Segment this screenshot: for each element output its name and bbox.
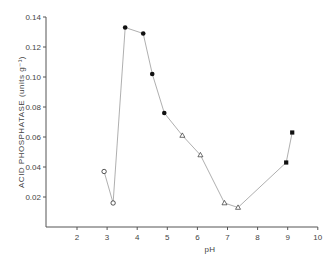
x-tick-label: 6 xyxy=(195,233,200,242)
y-tick-label: 0.02 xyxy=(25,193,41,202)
x-tick-label: 4 xyxy=(135,233,140,242)
axes: 0.020.040.060.080.100.120.142345678910 xyxy=(25,13,322,242)
open-triangle-marker xyxy=(222,200,227,204)
data-line xyxy=(104,28,292,208)
filled-circle-marker xyxy=(123,25,128,30)
y-tick-label: 0.04 xyxy=(25,163,41,172)
filled-circle-marker xyxy=(150,72,155,77)
filled-circle-marker xyxy=(162,111,167,116)
x-tick-label: 3 xyxy=(105,233,110,242)
x-tick-label: 7 xyxy=(225,233,230,242)
y-tick-label: 0.12 xyxy=(25,43,41,52)
y-axis-label: ACID PHOSPHATASE (units g⁻¹) xyxy=(17,56,26,188)
filled-square-marker xyxy=(290,130,294,134)
x-tick-label: 9 xyxy=(285,233,290,242)
x-tick-label: 2 xyxy=(75,233,80,242)
open-circle-marker xyxy=(102,169,106,173)
open-circle-marker xyxy=(111,201,115,205)
filled-circle-marker xyxy=(141,31,146,36)
x-axis-label: pH xyxy=(204,245,215,254)
ph-activity-chart: 0.020.040.060.080.100.120.142345678910 p… xyxy=(0,0,333,264)
x-tick-label: 10 xyxy=(313,233,322,242)
y-tick-label: 0.14 xyxy=(25,13,41,22)
connecting-line xyxy=(104,28,292,208)
x-tick-label: 8 xyxy=(255,233,260,242)
y-tick-label: 0.08 xyxy=(25,103,41,112)
y-tick-label: 0.06 xyxy=(25,133,41,142)
filled-square-marker xyxy=(284,160,288,164)
x-tick-label: 5 xyxy=(165,233,170,242)
y-tick-label: 0.10 xyxy=(25,73,41,82)
